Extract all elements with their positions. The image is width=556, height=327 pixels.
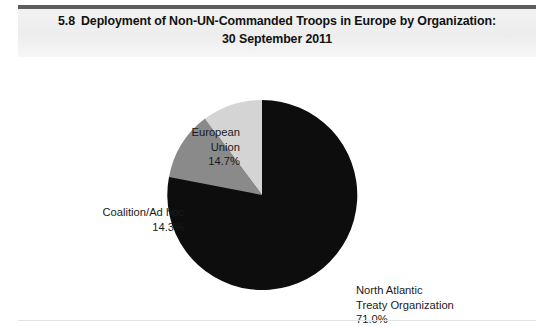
pie-chart-area: European Union 14.7% Coalition/Ad hoc 14… xyxy=(0,57,556,315)
bottom-rule xyxy=(18,320,536,321)
figure-title-text: Deployment of Non-UN-Commanded Troops in… xyxy=(81,14,496,28)
figure-number: 5.8 xyxy=(58,14,75,28)
figure-title-line-1: 5.8Deployment of Non-UN-Commanded Troops… xyxy=(18,13,536,31)
figure-page: 5.8Deployment of Non-UN-Commanded Troops… xyxy=(0,0,556,327)
pie-label-european-union: European Union 14.7% xyxy=(140,125,240,169)
figure-title-line-2: 30 September 2011 xyxy=(18,31,536,49)
pie-label-coalition-ad-hoc: Coalition/Ad hoc 14.3% xyxy=(62,205,184,234)
figure-title: 5.8Deployment of Non-UN-Commanded Troops… xyxy=(18,13,536,48)
pie-chart-svg xyxy=(0,57,556,315)
